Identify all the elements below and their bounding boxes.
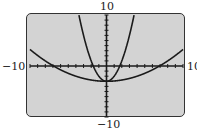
graph-plot: [0, 0, 197, 130]
xmax-label: 10: [187, 61, 197, 72]
ymax-label: 10: [100, 1, 114, 12]
xmin-label: −10: [2, 61, 25, 72]
ymin-label: −10: [97, 119, 120, 130]
